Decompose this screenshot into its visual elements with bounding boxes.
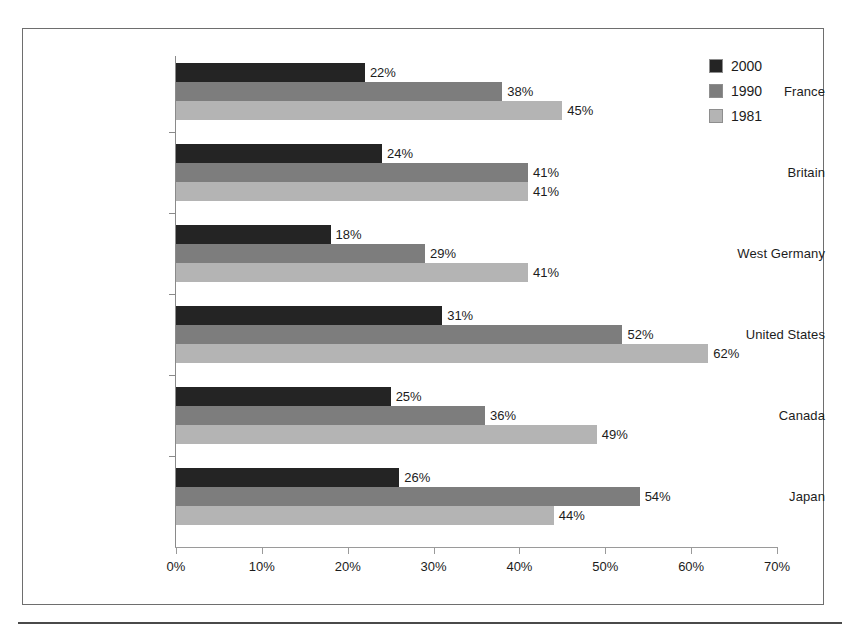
x-axis-tick-label: 60%: [661, 559, 721, 574]
bar[interactable]: [176, 244, 425, 263]
legend-swatch-icon: [709, 84, 723, 98]
bar-value-label: 62%: [708, 344, 739, 363]
legend-item-2000[interactable]: 2000: [709, 55, 819, 80]
bar[interactable]: [176, 182, 528, 201]
page-bottom-rule: [18, 622, 842, 624]
x-axis-tick: [434, 547, 435, 554]
y-axis-tick: [169, 375, 176, 376]
bar[interactable]: [176, 101, 562, 120]
bar[interactable]: [176, 487, 640, 506]
x-axis-tick-label: 10%: [232, 559, 292, 574]
bar-value-label: 45%: [562, 101, 593, 120]
legend-swatch-icon: [709, 109, 723, 123]
y-axis-tick: [169, 294, 176, 295]
x-axis-tick: [176, 547, 177, 554]
bar-value-label: 41%: [528, 182, 559, 201]
bar-value-label: 41%: [528, 163, 559, 182]
bar[interactable]: [176, 468, 399, 487]
x-axis-tick: [691, 547, 692, 554]
category-label-united-states: United States: [685, 327, 825, 342]
category-label-japan: Japan: [685, 489, 825, 504]
bar[interactable]: [176, 325, 622, 344]
bar[interactable]: [176, 425, 597, 444]
legend-item-1990[interactable]: 1990: [709, 80, 819, 105]
chart-legend: 200019901981: [709, 55, 819, 130]
bar[interactable]: [176, 163, 528, 182]
category-label-west-germany: West Germany: [685, 246, 825, 261]
bar[interactable]: [176, 506, 554, 525]
bar-value-label: 36%: [485, 406, 516, 425]
x-axis-tick: [348, 547, 349, 554]
bar-value-label: 29%: [425, 244, 456, 263]
figure-frame: 22%38%45%24%41%41%18%29%41%31%52%62%25%3…: [22, 28, 824, 605]
x-axis-tick-label: 70%: [747, 559, 807, 574]
bar[interactable]: [176, 82, 502, 101]
legend-item-1981[interactable]: 1981: [709, 105, 819, 130]
category-label-britain: Britain: [685, 165, 825, 180]
bar-value-label: 41%: [528, 263, 559, 282]
x-axis-tick-label: 30%: [404, 559, 464, 574]
bar-chart-plot-area: 22%38%45%24%41%41%18%29%41%31%52%62%25%3…: [23, 29, 825, 606]
x-axis-tick: [262, 547, 263, 554]
category-label-canada: Canada: [685, 408, 825, 423]
bar-value-label: 26%: [399, 468, 430, 487]
bar[interactable]: [176, 406, 485, 425]
bar[interactable]: [176, 387, 391, 406]
y-axis-tick: [169, 456, 176, 457]
bar[interactable]: [176, 306, 442, 325]
bar-value-label: 52%: [622, 325, 653, 344]
x-axis-tick-label: 0%: [146, 559, 206, 574]
bar-value-label: 25%: [391, 387, 422, 406]
bar-value-label: 44%: [554, 506, 585, 525]
x-axis-tick-label: 50%: [575, 559, 635, 574]
y-axis-tick: [169, 132, 176, 133]
x-axis-tick: [605, 547, 606, 554]
bar-value-label: 38%: [502, 82, 533, 101]
y-axis-tick: [169, 213, 176, 214]
bar[interactable]: [176, 225, 331, 244]
bar-value-label: 49%: [597, 425, 628, 444]
legend-label: 1990: [731, 80, 762, 102]
bar-value-label: 54%: [640, 487, 671, 506]
bar[interactable]: [176, 63, 365, 82]
x-axis-tick: [777, 547, 778, 554]
x-axis-tick: [519, 547, 520, 554]
legend-label: 2000: [731, 55, 762, 77]
legend-swatch-icon: [709, 59, 723, 73]
bar[interactable]: [176, 263, 528, 282]
bar-value-label: 24%: [382, 144, 413, 163]
bar-value-label: 18%: [331, 225, 362, 244]
legend-label: 1981: [731, 105, 762, 127]
bar[interactable]: [176, 144, 382, 163]
x-axis-tick-label: 40%: [489, 559, 549, 574]
x-axis-line: [175, 547, 777, 548]
bar-value-label: 31%: [442, 306, 473, 325]
bar-value-label: 22%: [365, 63, 396, 82]
bar[interactable]: [176, 344, 708, 363]
x-axis-tick-label: 20%: [318, 559, 378, 574]
